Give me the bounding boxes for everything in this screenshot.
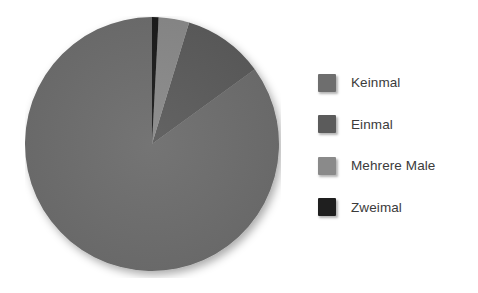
legend-item-einmal[interactable]: Einmal (318, 104, 474, 146)
legend-swatch-mehrere-male (318, 157, 336, 175)
legend-item-zweimal[interactable]: Zweimal (318, 187, 474, 229)
legend-label-keinmal: Keinmal (351, 76, 400, 90)
legend-item-mehrere-male[interactable]: Mehrere Male (318, 145, 474, 187)
legend-swatch-einmal (318, 115, 336, 133)
legend-label-zweimal: Zweimal (351, 201, 402, 215)
pie-chart-figure: Keinmal Einmal Mehrere Male Zweimal (0, 0, 478, 293)
legend-label-einmal: Einmal (351, 118, 393, 132)
legend: Keinmal Einmal Mehrere Male Zweimal (318, 62, 474, 228)
pie-chart-svg (25, 16, 281, 278)
legend-swatch-zweimal (318, 198, 336, 216)
legend-swatch-keinmal (318, 74, 336, 92)
legend-label-mehrere-male: Mehrere Male (351, 159, 435, 173)
pie-slice-group (25, 17, 279, 271)
legend-item-keinmal[interactable]: Keinmal (318, 62, 474, 104)
pie-chart-plot-area (25, 16, 281, 278)
